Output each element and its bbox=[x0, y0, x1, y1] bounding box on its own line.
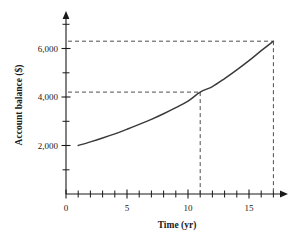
x-axis-title: Time (yr) bbox=[158, 220, 197, 231]
y-tick-label-6000: 6,000 bbox=[38, 44, 59, 54]
x-tick-label-10: 10 bbox=[184, 203, 194, 213]
account-balance-line-chart: 2,000 4,000 6,000 0 5 10 15 Time (yr) Ac… bbox=[0, 0, 297, 244]
y-axis-title: Account balance ($) bbox=[14, 65, 25, 146]
y-tick-label-4000: 4,000 bbox=[38, 92, 59, 102]
x-tick-label-0: 0 bbox=[64, 203, 69, 213]
chart-figure: 2,000 4,000 6,000 0 5 10 15 Time (yr) Ac… bbox=[0, 0, 297, 244]
x-tick-label-15: 15 bbox=[245, 203, 255, 213]
x-tick-label-5: 5 bbox=[125, 203, 130, 213]
y-tick-label-2000: 2,000 bbox=[38, 141, 59, 151]
